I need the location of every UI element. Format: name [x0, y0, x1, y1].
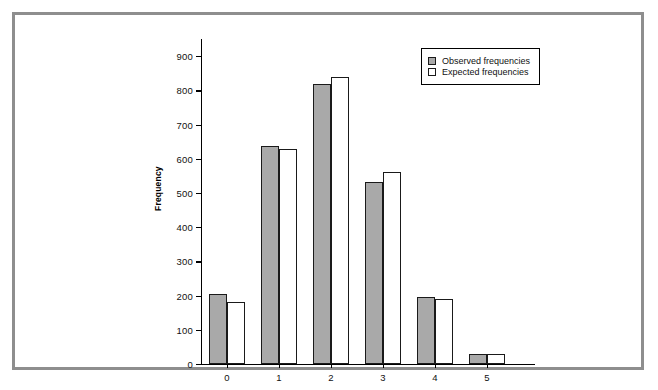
bar-expected-5 — [487, 354, 505, 364]
y-tick-label: 0 — [188, 359, 193, 370]
bar-observed-3 — [365, 182, 383, 364]
x-tick-mark — [487, 364, 488, 368]
bar-expected-1 — [279, 149, 297, 364]
y-tick-label: 800 — [177, 85, 193, 96]
legend-swatch-expected-icon — [428, 68, 436, 76]
bar-expected-3 — [383, 172, 401, 364]
bar-expected-2 — [331, 77, 349, 364]
bar-observed-0 — [209, 294, 227, 364]
bar-observed-4 — [417, 297, 435, 364]
y-tick-label: 700 — [177, 119, 193, 130]
x-tick-mark — [383, 364, 384, 368]
x-tick-mark — [279, 364, 280, 368]
bar-expected-4 — [435, 299, 453, 364]
legend-item-expected: Expected frequencies — [428, 67, 530, 77]
legend-label-expected: Expected frequencies — [442, 67, 529, 77]
x-tick-label: 5 — [484, 372, 489, 383]
x-tick-label: 1 — [276, 372, 281, 383]
y-tick-mark — [196, 227, 201, 228]
legend-swatch-observed-icon — [428, 57, 436, 65]
x-tick-label: 2 — [328, 372, 333, 383]
y-tick-mark — [196, 296, 201, 297]
x-tick-label: 4 — [432, 372, 437, 383]
y-tick-label: 900 — [177, 51, 193, 62]
bar-observed-5 — [469, 354, 487, 364]
y-axis-line — [201, 39, 202, 364]
bar-observed-2 — [313, 84, 331, 364]
y-tick-mark — [196, 56, 201, 57]
legend-label-observed: Observed frequencies — [442, 56, 530, 66]
plot-area: 0100200300400500600700800900 012345 — [201, 39, 541, 364]
bar-observed-1 — [261, 146, 279, 364]
y-tick-mark — [196, 193, 201, 194]
y-tick-mark — [196, 125, 201, 126]
y-tick-mark — [196, 364, 201, 365]
y-tick-mark — [196, 90, 201, 91]
y-tick-label: 200 — [177, 290, 193, 301]
x-tick-mark — [435, 364, 436, 368]
bar-expected-0 — [227, 302, 245, 364]
y-tick-label: 500 — [177, 187, 193, 198]
legend-item-observed: Observed frequencies — [428, 56, 530, 66]
x-axis-line — [200, 364, 535, 365]
y-tick-label: 600 — [177, 153, 193, 164]
x-tick-mark — [227, 364, 228, 368]
x-tick-label: 3 — [380, 372, 385, 383]
x-tick-mark — [331, 364, 332, 368]
legend: Observed frequencies Expected frequencie… — [421, 48, 540, 85]
x-tick-label: 0 — [224, 372, 229, 383]
y-tick-label: 300 — [177, 256, 193, 267]
y-tick-mark — [196, 159, 201, 160]
y-tick-mark — [196, 330, 201, 331]
y-tick-mark — [196, 261, 201, 262]
chart-figure: Frequency 0100200300400500600700800900 0… — [0, 0, 658, 390]
figure-frame: Frequency 0100200300400500600700800900 0… — [12, 12, 644, 370]
y-tick-label: 100 — [177, 324, 193, 335]
y-tick-label: 400 — [177, 222, 193, 233]
y-axis-title: Frequency — [153, 166, 163, 211]
